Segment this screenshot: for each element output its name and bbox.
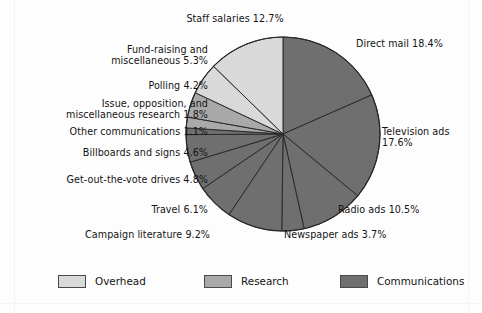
slice-label-get-out-the-vote: Get-out-the-vote drives 4.8% <box>18 174 208 185</box>
slice-label-campaign-literature: Campaign literature 9.2% <box>40 229 210 240</box>
slice-label-travel: Travel 6.1% <box>58 204 208 215</box>
slice-label-direct-mail: Direct mail 18.4% <box>356 38 482 49</box>
legend-label-research: Research <box>241 275 289 287</box>
chart-legend: Overhead Research Communications <box>14 272 468 298</box>
legend-swatch-communications <box>340 275 368 288</box>
legend-label-overhead: Overhead <box>95 275 146 287</box>
slice-label-staff-salaries: Staff salaries 12.7% <box>150 13 320 24</box>
pie-slice-group <box>186 37 380 231</box>
legend-swatch-research <box>204 275 232 288</box>
slice-label-radio-ads: Radio ads 10.5% <box>338 204 478 215</box>
slice-label-polling: Polling 4.2% <box>60 80 208 91</box>
slice-label-fund-raising: Fund-raising and miscellaneous 5.3% <box>50 44 208 67</box>
slice-label-billboards: Billboards and signs 4.6% <box>28 147 208 158</box>
slice-label-newspaper-ads: Newspaper ads 3.7% <box>284 229 444 240</box>
slice-label-issue-research: Issue, opposition, and miscellaneous res… <box>8 98 208 121</box>
slice-label-other-communications: Other communications 1.1% <box>8 126 208 137</box>
legend-swatch-overhead <box>58 275 86 288</box>
slice-label-television-ads: Television ads 17.6% <box>382 126 482 149</box>
legend-item-research: Research <box>204 272 289 290</box>
pie-chart-figure: Staff salaries 12.7% Fund-raising and mi… <box>0 0 482 313</box>
legend-label-communications: Communications <box>377 275 464 287</box>
legend-item-communications: Communications <box>340 272 464 290</box>
legend-item-overhead: Overhead <box>58 272 146 290</box>
